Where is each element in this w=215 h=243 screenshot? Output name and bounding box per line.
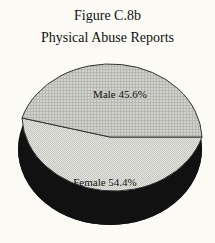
label-female: Female 54.4% <box>73 176 137 188</box>
pie-chart: Male 45.6% Female 54.4% <box>0 0 215 243</box>
label-male: Male 45.6% <box>93 88 147 100</box>
